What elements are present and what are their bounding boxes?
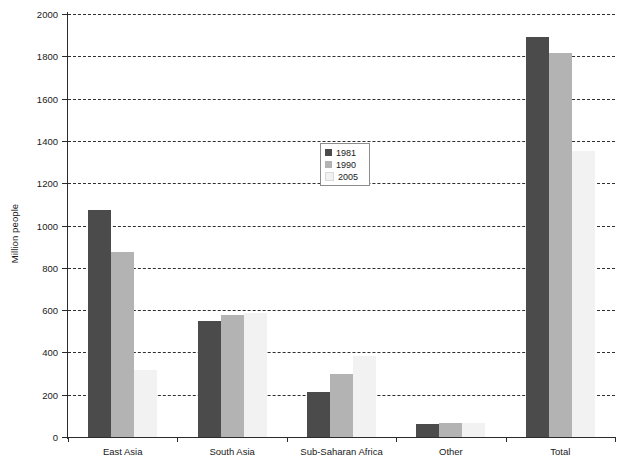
y-axis-tick bbox=[62, 14, 68, 15]
bar-2005-sub-saharan-africa[interactable] bbox=[353, 356, 376, 437]
legend-item-1990[interactable]: 1990 bbox=[325, 159, 365, 170]
bar-1990-east-asia[interactable] bbox=[111, 252, 134, 437]
bar-1990-other[interactable] bbox=[439, 423, 462, 437]
x-axis-tick bbox=[615, 437, 616, 442]
x-axis-tick bbox=[287, 437, 288, 442]
y-axis-tick bbox=[62, 310, 68, 311]
y-axis-tick-label: 600 bbox=[2, 305, 58, 316]
legend-item-1981[interactable]: 1981 bbox=[325, 147, 365, 158]
bar-group bbox=[307, 14, 376, 437]
legend-swatch-icon bbox=[325, 172, 334, 181]
y-axis-tick bbox=[62, 352, 68, 353]
plot-area bbox=[68, 14, 615, 437]
y-axis-tick-label: 2000 bbox=[2, 9, 58, 20]
x-axis-label-south-asia: South Asia bbox=[209, 446, 254, 457]
bar-chart: Million people 0200400600800100012001400… bbox=[0, 0, 625, 466]
y-axis-tick-label: 1200 bbox=[2, 178, 58, 189]
y-axis-tick bbox=[62, 183, 68, 184]
bar-2005-other[interactable] bbox=[462, 423, 485, 437]
bar-1990-sub-saharan-africa[interactable] bbox=[330, 374, 353, 437]
x-axis-tick bbox=[396, 437, 397, 442]
y-axis-tick-label: 400 bbox=[2, 347, 58, 358]
legend-label: 2005 bbox=[338, 172, 358, 182]
y-axis-tick-label: 1400 bbox=[2, 135, 58, 146]
bar-1990-south-asia[interactable] bbox=[221, 315, 244, 437]
legend-swatch-icon bbox=[325, 149, 332, 156]
y-axis-tick-labels: 0200400600800100012001400160018002000 bbox=[0, 0, 58, 466]
bar-2005-south-asia[interactable] bbox=[244, 313, 267, 437]
x-axis-tick bbox=[68, 437, 69, 442]
bar-group bbox=[198, 14, 267, 437]
bar-group bbox=[526, 14, 595, 437]
y-axis-tick-label: 1000 bbox=[2, 220, 58, 231]
chart-legend: 198119902005 bbox=[320, 143, 370, 186]
bar-1981-total[interactable] bbox=[526, 37, 549, 437]
bar-1981-other[interactable] bbox=[416, 424, 439, 437]
x-axis-tick bbox=[506, 437, 507, 442]
x-axis-label-total: Total bbox=[550, 446, 570, 457]
y-axis-tick bbox=[62, 226, 68, 227]
bar-2005-east-asia[interactable] bbox=[134, 370, 157, 437]
bar-group bbox=[88, 14, 157, 437]
y-axis-tick-label: 0 bbox=[2, 432, 58, 443]
bar-1990-total[interactable] bbox=[549, 53, 572, 437]
y-axis-tick bbox=[62, 268, 68, 269]
y-axis-tick-label: 200 bbox=[2, 389, 58, 400]
y-axis-tick bbox=[62, 395, 68, 396]
y-axis-tick bbox=[62, 56, 68, 57]
bar-1981-sub-saharan-africa[interactable] bbox=[307, 392, 330, 437]
legend-label: 1990 bbox=[336, 160, 356, 170]
y-axis-tick-label: 800 bbox=[2, 262, 58, 273]
x-axis-label-east-asia: East Asia bbox=[103, 446, 143, 457]
legend-swatch-icon bbox=[325, 161, 332, 168]
x-axis-tick bbox=[177, 437, 178, 442]
y-axis-tick-label: 1600 bbox=[2, 93, 58, 104]
y-axis-tick-label: 1800 bbox=[2, 51, 58, 62]
x-axis-line bbox=[68, 437, 615, 438]
bar-1981-east-asia[interactable] bbox=[88, 210, 111, 437]
y-axis-tick bbox=[62, 141, 68, 142]
bar-2005-total[interactable] bbox=[572, 151, 595, 437]
legend-item-2005[interactable]: 2005 bbox=[325, 171, 365, 182]
x-axis-label-other: Other bbox=[439, 446, 463, 457]
legend-label: 1981 bbox=[336, 148, 356, 158]
x-axis-label-sub-saharan-africa: Sub-Saharan Africa bbox=[300, 446, 382, 457]
bar-group bbox=[416, 14, 485, 437]
bar-1981-south-asia[interactable] bbox=[198, 321, 221, 437]
y-axis-tick bbox=[62, 99, 68, 100]
